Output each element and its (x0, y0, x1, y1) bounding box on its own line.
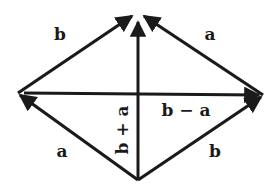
vector-b-upper-left (18, 16, 132, 93)
label-a-lower-left: a (56, 141, 67, 161)
vector-diagram: b a a b b − a b + a (0, 0, 277, 187)
label-a-upper-right: a (204, 24, 215, 44)
label-difference: b − a (162, 100, 211, 120)
label-sum: b + a (112, 106, 132, 155)
vector-difference (24, 93, 259, 95)
label-b-lower-right: b (209, 141, 221, 161)
label-b-upper-left: b (54, 24, 66, 44)
